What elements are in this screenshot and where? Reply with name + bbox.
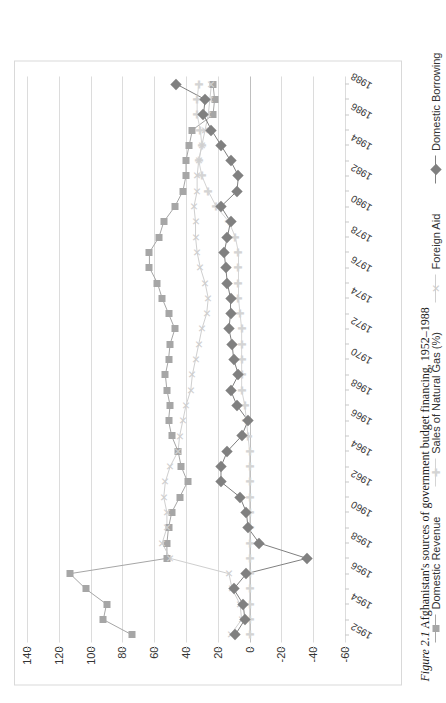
data-point-square-marker — [146, 248, 153, 255]
category-axis-tick — [345, 557, 349, 558]
value-axis-tick-label: 80 — [116, 646, 128, 680]
data-point-cross-marker: ✚ — [193, 79, 204, 88]
data-point-square-marker — [178, 463, 185, 470]
value-axis-tick — [186, 646, 187, 650]
plot-area: ✚✚✚✚✚✚✚✚✚✚✚✚✚✚✚✚✚✚✚✚✚✚✚✚✚✚✚✚✚✚✚✚✚✚✚✚✚✕✕✕… — [27, 76, 345, 642]
data-point-x-marker: ✕ — [190, 355, 201, 364]
category-axis: 1952195419561958196019621964196619681970… — [345, 76, 401, 642]
data-point-x-marker: ✕ — [157, 538, 168, 547]
data-point-cross-marker: ✚ — [203, 186, 214, 195]
data-point-cross-marker: ✚ — [233, 247, 244, 256]
data-point-x-marker: ✕ — [195, 263, 206, 272]
category-axis-tick — [345, 542, 349, 543]
value-axis-tick-label: 100 — [85, 646, 97, 680]
category-axis-tick — [345, 466, 349, 467]
data-point-x-marker: ✕ — [192, 247, 203, 256]
data-point-cross-marker: ✚ — [236, 385, 247, 394]
value-axis-tick — [27, 646, 28, 650]
category-axis-tick — [345, 83, 349, 84]
category-axis-tick — [345, 450, 349, 451]
data-point-x-marker: ✕ — [173, 446, 184, 455]
category-axis-tick — [345, 619, 349, 620]
value-axis-tick-label: -60 — [339, 646, 351, 680]
value-axis-tick-label: 60 — [148, 646, 160, 680]
data-point-square-marker — [184, 478, 191, 485]
category-axis-tick — [345, 206, 349, 207]
data-point-x-marker: ✕ — [196, 140, 207, 149]
category-axis-tick-label: 1986 — [349, 101, 374, 122]
category-axis-tick — [345, 282, 349, 283]
data-point-x-marker: ✕ — [200, 278, 211, 287]
figure-rotor: 140120100806040200-20-40-60 ✚✚✚✚✚✚✚✚✚✚✚✚… — [0, 0, 446, 703]
data-point-x-marker: ✕ — [160, 477, 171, 486]
category-axis-tick — [345, 588, 349, 589]
category-axis-tick-label: 1982 — [349, 162, 374, 183]
data-point-cross-marker: ✚ — [233, 263, 244, 272]
data-point-x-marker: ✕ — [192, 171, 203, 180]
value-axis-tick-label: 20 — [212, 646, 224, 680]
category-axis-tick — [345, 420, 349, 421]
figure-caption-text: Afghanistan's sources of government budg… — [418, 307, 432, 629]
data-point-x-marker: ✕ — [190, 217, 201, 226]
data-point-x-marker: ✕ — [196, 324, 207, 333]
category-axis-tick — [345, 343, 349, 344]
data-point-square-marker — [154, 279, 161, 286]
category-axis-tick — [345, 496, 349, 497]
data-point-square-marker — [183, 157, 190, 164]
category-axis-tick-label: 1974 — [349, 284, 374, 305]
category-axis-tick — [345, 175, 349, 176]
data-point-x-marker: ✕ — [193, 339, 204, 348]
value-axis-tick — [122, 646, 123, 650]
category-axis-tick — [345, 98, 349, 99]
category-axis-tick — [345, 328, 349, 329]
value-axis-tick-label: -20 — [275, 646, 287, 680]
data-point-square-marker — [100, 616, 107, 623]
data-point-x-marker: ✕ — [193, 156, 204, 165]
data-point-square-marker — [146, 264, 153, 271]
value-axis: 140120100806040200-20-40-60 — [27, 646, 345, 684]
category-axis-tick — [345, 603, 349, 604]
figure: 140120100806040200-20-40-60 ✚✚✚✚✚✚✚✚✚✚✚✚… — [0, 0, 446, 703]
category-axis-tick — [345, 267, 349, 268]
data-point-x-marker: ✕ — [165, 553, 176, 562]
category-axis-tick-label: 1976 — [349, 254, 374, 275]
data-point-cross-marker: ✚ — [244, 446, 255, 455]
category-axis-tick — [345, 297, 349, 298]
data-point-cross-marker: ✚ — [244, 630, 255, 639]
category-axis-tick — [345, 114, 349, 115]
data-point-x-marker: ✕ — [190, 232, 201, 241]
data-point-x-marker: ✕ — [165, 462, 176, 471]
figure-number: Figure 2.1 — [418, 631, 432, 681]
category-axis-tick-label: 1968 — [349, 376, 374, 397]
category-axis-tick — [345, 129, 349, 130]
category-axis-tick — [345, 221, 349, 222]
category-axis-tick-label: 1970 — [349, 345, 374, 366]
data-point-square-marker — [167, 401, 174, 408]
category-axis-tick — [345, 313, 349, 314]
value-axis-tick — [281, 646, 282, 650]
value-axis-tick — [154, 646, 155, 650]
category-axis-tick-label: 1958 — [349, 529, 374, 550]
data-point-square-marker — [165, 356, 172, 363]
data-point-x-marker: ✕ — [188, 202, 199, 211]
data-point-x-marker: ✕ — [174, 431, 185, 440]
category-axis-tick-label: 1962 — [349, 468, 374, 489]
value-axis-tick-label: 40 — [180, 646, 192, 680]
category-axis-tick — [345, 236, 349, 237]
category-axis-tick — [345, 389, 349, 390]
category-axis-tick — [345, 190, 349, 191]
category-axis-tick-label: 1984 — [349, 131, 374, 152]
category-axis-tick — [345, 573, 349, 574]
data-point-square-marker — [176, 493, 183, 500]
data-point-x-marker: ✕ — [187, 370, 198, 379]
category-axis-tick-label: 1952 — [349, 621, 374, 642]
category-axis-tick — [345, 251, 349, 252]
category-axis-tick — [345, 374, 349, 375]
data-point-square-marker — [186, 141, 193, 148]
value-axis-tick — [91, 646, 92, 650]
data-point-cross-marker: ✚ — [244, 584, 255, 593]
data-point-square-marker — [165, 310, 172, 317]
category-axis-tick — [345, 481, 349, 482]
category-axis-tick — [345, 435, 349, 436]
data-point-square-marker — [171, 203, 178, 210]
